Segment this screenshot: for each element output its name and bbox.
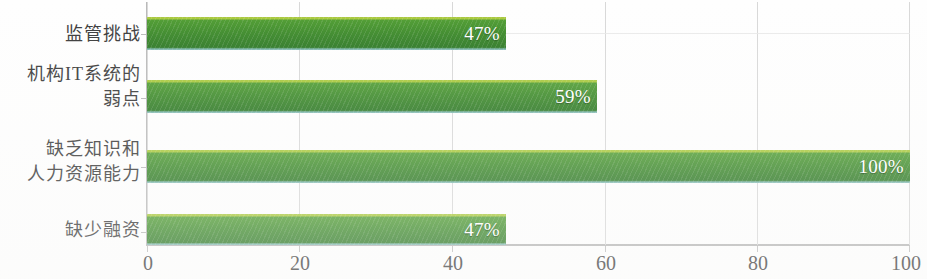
x-tick-label-60: 60: [596, 252, 616, 275]
x-tick-label-80: 80: [748, 252, 768, 275]
bar-value-label-0: 47%: [464, 23, 500, 45]
bar-value-label-1: 59%: [555, 86, 591, 108]
x-tick-label-0: 0: [143, 252, 153, 275]
horizontal-bar-chart: 监管挑战 机构IT系统的 弱点 缺乏知识和 人力资源能力 缺少融资 47% 59…: [0, 0, 927, 279]
y-axis-label-3: 缺少融资: [1, 218, 141, 243]
bar-1[interactable]: 59%: [147, 80, 597, 113]
y-axis-label-1: 机构IT系统的 弱点: [1, 62, 141, 112]
gridline-x-80: [757, 2, 758, 245]
bar-0[interactable]: 47%: [147, 17, 506, 50]
bar-value-label-3: 47%: [464, 219, 500, 241]
bar-2[interactable]: 100%: [147, 150, 910, 183]
y-axis-labels: 监管挑战 机构IT系统的 弱点 缺乏知识和 人力资源能力 缺少融资: [0, 0, 141, 279]
bar-value-label-2: 100%: [858, 156, 904, 178]
gridline-x-60: [605, 2, 606, 245]
x-tick-label-40: 40: [443, 252, 463, 275]
x-tick-label-100: 100: [891, 252, 921, 275]
y-axis-label-0: 监管挑战: [1, 22, 141, 47]
y-axis-label-2: 缺乏知识和 人力资源能力: [1, 137, 141, 187]
plot-area: 47% 59% 100% 47%: [147, 2, 910, 245]
x-tick-label-20: 20: [290, 252, 310, 275]
bar-3[interactable]: 47%: [147, 214, 506, 245]
gridline-x-100: [909, 2, 910, 245]
